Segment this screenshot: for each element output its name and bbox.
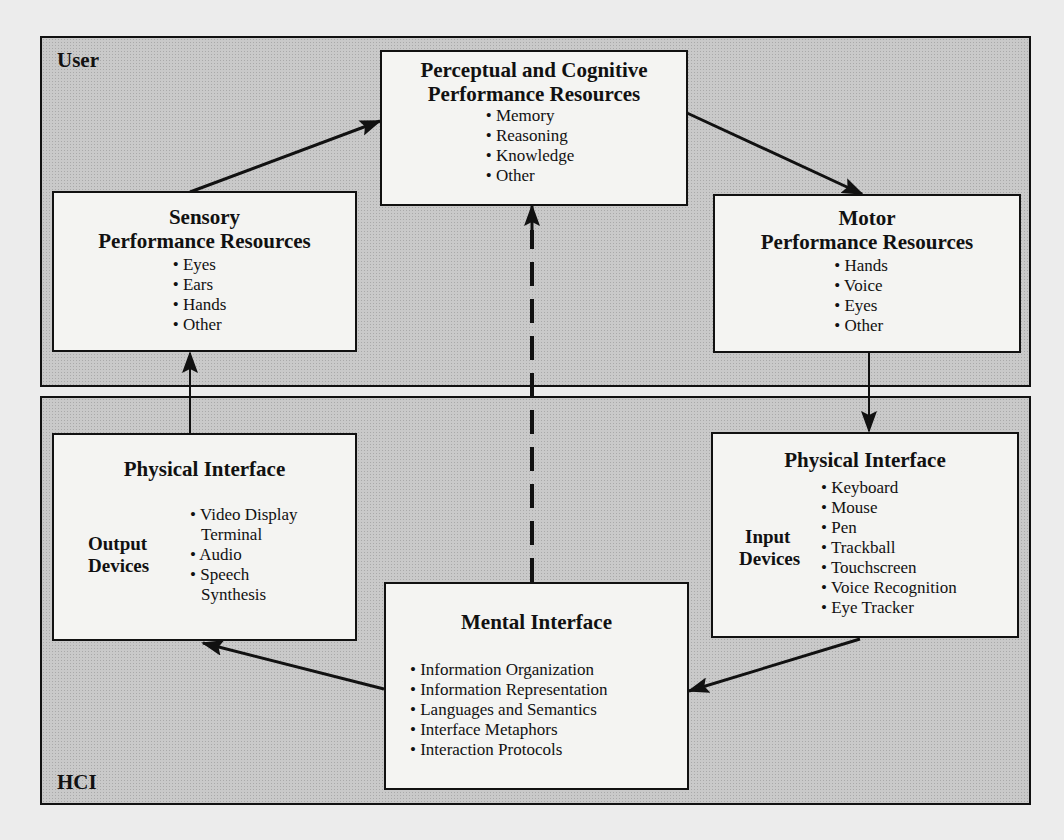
physical-output-title: Physical Interface: [54, 457, 355, 481]
physical-interface-input-box: Physical Interface Input Devices Keyboar…: [711, 432, 1019, 638]
list-item: Touchscreen: [821, 558, 957, 578]
hci-region-label: HCI: [57, 770, 97, 795]
output-devices-list: Video Display Terminal Audio Speech Synt…: [190, 505, 298, 605]
list-item: Hands: [834, 256, 888, 276]
list-item: Knowledge: [486, 146, 575, 166]
physical-interface-output-box: Physical Interface Output Devices Video …: [52, 433, 357, 641]
input-devices-label-line2: Devices: [739, 548, 819, 570]
list-item: Information Representation: [410, 680, 608, 700]
list-item: Video Display: [190, 505, 298, 525]
list-item: Interface Metaphors: [410, 720, 608, 740]
list-item: Pen: [821, 518, 957, 538]
list-item: Eyes: [834, 296, 888, 316]
list-item: Ears: [173, 275, 227, 295]
list-item: Eyes: [173, 255, 227, 275]
list-item: Mouse: [821, 498, 957, 518]
output-devices-label-line2: Devices: [88, 555, 188, 577]
sensory-title-line1: Sensory: [54, 205, 355, 229]
mental-interface-box: Mental Interface Information Organizatio…: [384, 582, 689, 790]
list-item: Hands: [173, 295, 227, 315]
motor-title-line2: Performance Resources: [715, 230, 1019, 254]
motor-title-line1: Motor: [715, 206, 1019, 230]
perceptual-title-line2: Performance Resources: [382, 82, 686, 106]
list-item: Voice Recognition: [821, 578, 957, 598]
perceptual-title-line1: Perceptual and Cognitive: [382, 58, 686, 82]
input-devices-list: Keyboard Mouse Pen Trackball Touchscreen…: [821, 478, 957, 618]
motor-box: Motor Performance Resources Hands Voice …: [713, 194, 1021, 353]
list-item-continuation: Terminal: [190, 525, 298, 545]
list-item: Languages and Semantics: [410, 700, 608, 720]
list-item: Keyboard: [821, 478, 957, 498]
list-item-continuation: Synthesis: [190, 585, 298, 605]
perceptual-cognitive-box: Perceptual and Cognitive Performance Res…: [380, 50, 688, 206]
perceptual-list: Memory Reasoning Knowledge Other: [486, 106, 575, 186]
list-item: Voice: [834, 276, 888, 296]
list-item: Other: [834, 316, 888, 336]
input-devices-label-line1: Input: [739, 526, 819, 548]
user-region-label: User: [57, 48, 99, 73]
list-item: Memory: [486, 106, 575, 126]
motor-list: Hands Voice Eyes Other: [834, 256, 888, 336]
list-item: Trackball: [821, 538, 957, 558]
output-devices-label: Output Devices: [88, 533, 188, 577]
output-devices-label-line1: Output: [88, 533, 188, 555]
list-item: Reasoning: [486, 126, 575, 146]
input-devices-label: Input Devices: [739, 526, 819, 570]
mental-list: Information Organization Information Rep…: [410, 660, 608, 760]
mental-title: Mental Interface: [386, 610, 687, 634]
list-item: Information Organization: [410, 660, 608, 680]
list-item: Other: [173, 315, 227, 335]
sensory-title-line2: Performance Resources: [54, 229, 355, 253]
sensory-list: Eyes Ears Hands Other: [173, 255, 227, 335]
sensory-box: Sensory Performance Resources Eyes Ears …: [52, 191, 357, 352]
list-item: Other: [486, 166, 575, 186]
physical-input-title: Physical Interface: [713, 448, 1017, 472]
list-item: Audio: [190, 545, 298, 565]
list-item: Interaction Protocols: [410, 740, 608, 760]
list-item: Speech: [190, 565, 298, 585]
list-item: Eye Tracker: [821, 598, 957, 618]
